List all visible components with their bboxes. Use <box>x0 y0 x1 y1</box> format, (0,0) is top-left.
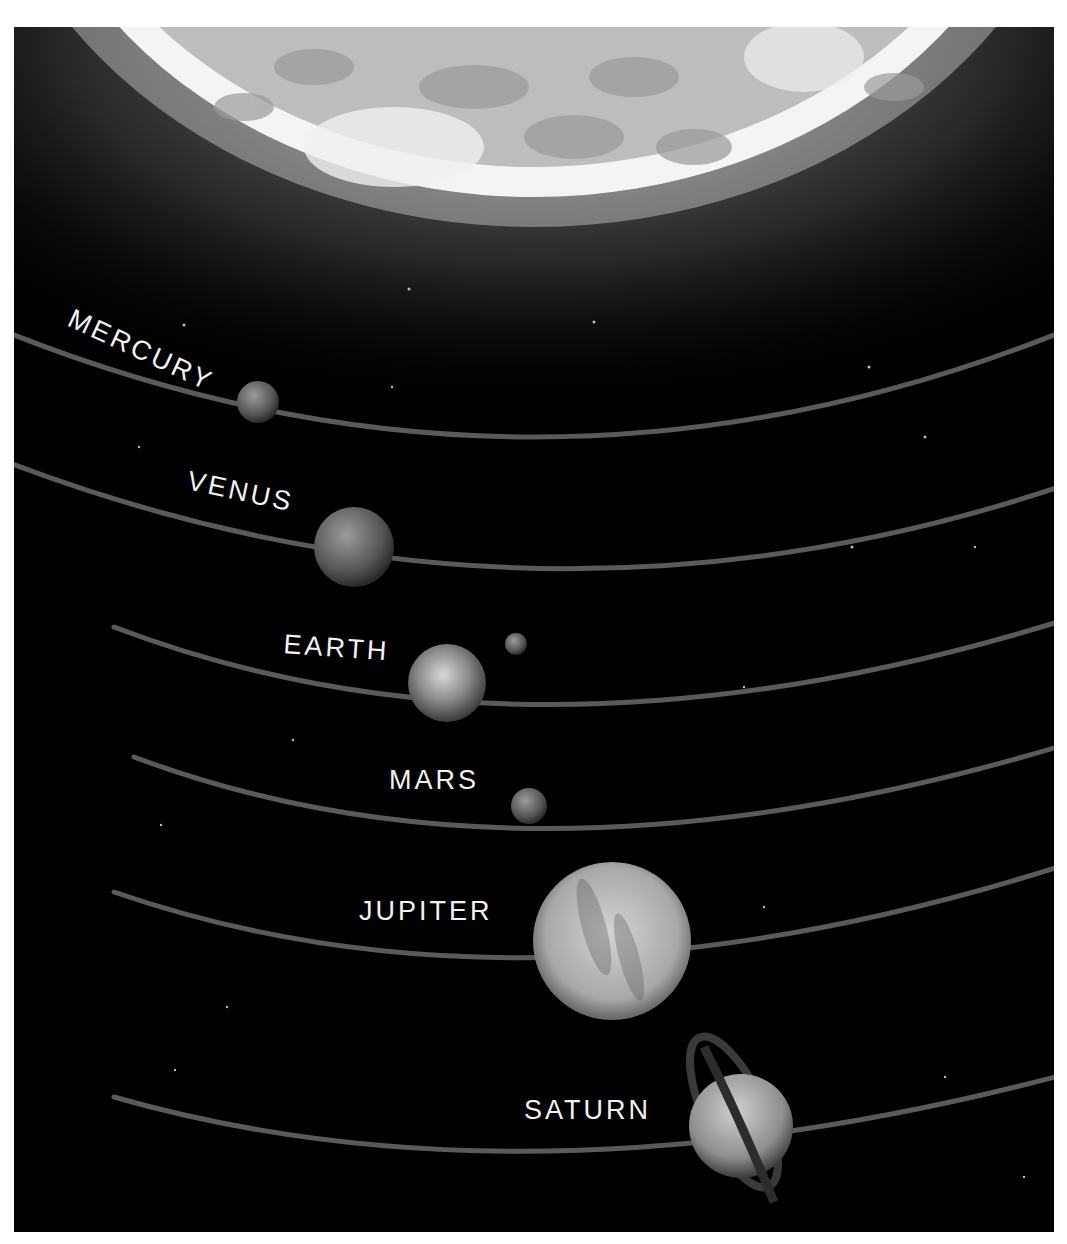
orbit-mars <box>134 742 1054 828</box>
moon-icon <box>505 633 527 655</box>
venus-icon <box>314 507 394 587</box>
jupiter-icon <box>533 862 691 1020</box>
earth-icon <box>408 644 486 722</box>
planet-mars: MARS <box>389 765 547 824</box>
label-mars: MARS <box>389 765 479 795</box>
label-jupiter: JUPITER <box>359 896 493 926</box>
mercury-icon <box>237 381 279 423</box>
solar-system-illustration: MERCURY VENUS EARTH MARS JUPITER SATURN <box>14 27 1054 1232</box>
planet-jupiter: JUPITER <box>359 862 691 1020</box>
label-earth: EARTH <box>283 629 391 666</box>
planet-saturn: SATURN <box>524 1025 796 1202</box>
orbit-earth <box>114 617 1054 705</box>
planet-earth: EARTH <box>283 629 527 722</box>
mars-icon <box>511 788 547 824</box>
label-saturn: SATURN <box>524 1095 651 1125</box>
